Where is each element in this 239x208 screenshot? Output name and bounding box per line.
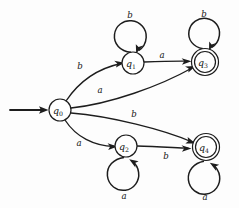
state-sub-q2: 2 [125, 145, 129, 152]
edge-label-q0-q2: a [76, 138, 81, 148]
automaton-svg: b a b a a b [0, 0, 239, 208]
state-sub-q1: 1 [132, 62, 136, 69]
state-node-q2[interactable]: q2 [115, 135, 137, 157]
edge-label-q4-self: a [202, 192, 207, 202]
self-loop-q4[interactable]: a [188, 161, 219, 202]
state-sub-q0: 0 [59, 109, 63, 116]
self-loop-q3[interactable]: b [189, 9, 220, 51]
transition-q1-q3[interactable]: a [144, 50, 192, 65]
transition-q0-q2[interactable]: a [65, 120, 118, 150]
start-arrow [10, 106, 49, 114]
edge-label-q3-self: b [201, 9, 207, 19]
transition-q0-q1[interactable]: b [66, 61, 125, 101]
edge-label-q0-q4: b [131, 109, 137, 119]
edge-label-q1-q3: a [159, 50, 164, 60]
edge-label-q0-q3: a [97, 85, 102, 95]
transition-q2-q4[interactable]: b [137, 145, 192, 161]
state-node-q1[interactable]: q1 [122, 52, 144, 74]
state-sub-q4: 4 [205, 146, 209, 153]
automaton-diagram: b a b a a b [0, 0, 239, 208]
edge-label-q1-self: b [127, 10, 133, 20]
self-loop-q2[interactable]: a [107, 157, 138, 201]
edge-label-q2-self: a [121, 191, 126, 201]
state-node-q3[interactable]: q3 [192, 49, 219, 76]
state-sub-q3: 3 [204, 61, 208, 68]
state-node-q4[interactable]: q4 [193, 134, 220, 161]
self-loop-q1[interactable]: b [114, 10, 146, 53]
edge-label-q2-q4: b [163, 151, 169, 161]
edge-label-q0-q1: b [77, 61, 83, 71]
state-node-q0[interactable]: q0 [49, 99, 71, 121]
